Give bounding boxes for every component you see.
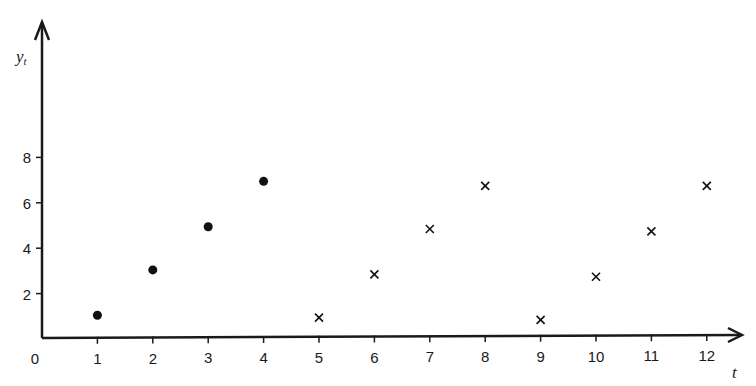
axes (35, 22, 742, 342)
x-axis-line (42, 335, 740, 338)
y-tick-label: 2 (23, 286, 31, 303)
x-tick-label: 11 (644, 347, 660, 364)
x-tick-label: 8 (481, 348, 489, 365)
x-tick-label: 7 (426, 348, 434, 365)
cross-marker (537, 316, 545, 324)
x-ticks: 123456789101112 (93, 334, 715, 367)
dot-marker (148, 265, 157, 274)
y-axis-label-subscript: t (24, 55, 28, 67)
x-tick-label: 10 (588, 348, 605, 365)
x-tick-label: 6 (370, 349, 378, 366)
x-tick-label: 1 (93, 350, 101, 367)
cross-marker (481, 182, 489, 190)
data-points (93, 177, 711, 324)
x-tick-label: 2 (149, 350, 157, 367)
dot-marker (204, 222, 213, 231)
x-tick-label: 9 (536, 348, 544, 365)
x-tick-label: 3 (204, 349, 212, 366)
x-tick-label: 12 (698, 347, 715, 364)
x-tick-label: 4 (259, 349, 267, 366)
x-tick-label: 5 (315, 349, 323, 366)
cross-marker (647, 227, 655, 235)
y-tick-label: 8 (23, 149, 31, 166)
origin-label: 0 (31, 350, 39, 367)
y-tick-label: 6 (23, 195, 31, 212)
y-tick-label: 4 (23, 240, 31, 257)
cross-marker (592, 273, 600, 281)
y-ticks: 2468 (23, 149, 42, 302)
y-axis-label-main: y (14, 47, 24, 66)
cross-marker (370, 270, 378, 278)
x-axis-label: t (732, 363, 738, 382)
dot-marker (259, 177, 268, 186)
cross-marker (426, 225, 434, 233)
scatter-chart: 123456789101112 2468 0 yt t (0, 0, 756, 386)
cross-marker (315, 314, 323, 322)
dot-marker (93, 311, 102, 320)
y-axis-label: yt (14, 47, 28, 67)
cross-marker (703, 182, 711, 190)
